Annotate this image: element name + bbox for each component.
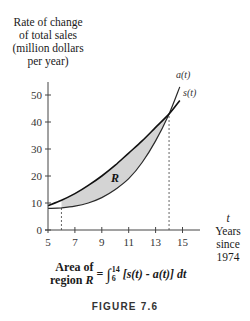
formula-lhs-text: region — [50, 273, 85, 287]
x-axis-label-line: 1974 — [206, 251, 250, 264]
x-axis-variable: t — [206, 212, 250, 225]
y-tick-label: 50 — [31, 89, 43, 101]
formula-lhs-var: R — [85, 273, 93, 287]
integral-limits: 14 6 — [112, 265, 120, 283]
curve-a — [48, 87, 180, 208]
x-tick-label: 15 — [177, 236, 189, 248]
formula-lhs-line2: region R — [50, 274, 93, 287]
y-tick-label: 20 — [31, 170, 43, 182]
formula-equals: = — [96, 268, 103, 281]
integral-lower-limit: 6 — [112, 274, 120, 283]
y-tick-label: 30 — [31, 143, 43, 155]
figure-caption: FIGURE 7.6 — [0, 301, 250, 312]
region-label-r: R — [110, 171, 119, 185]
x-tick-label: 13 — [150, 236, 162, 248]
formula-lhs: Area of region R — [50, 261, 93, 287]
y-tick-label: 10 — [31, 197, 43, 209]
x-axis-label-line: since — [206, 238, 250, 251]
x-tick-label: 5 — [45, 236, 51, 248]
formula-rhs: = ∫ 14 6 [s(t) - a(t)] dt — [96, 265, 186, 283]
area-formula: Area of region R = ∫ 14 6 [s(t) - a(t)] … — [50, 261, 186, 287]
x-tick-label: 11 — [123, 236, 134, 248]
curve-label-s: s(t) — [183, 87, 197, 99]
x-tick-label: 7 — [72, 236, 78, 248]
y-tick-label: 40 — [31, 116, 43, 128]
integrand: [s(t) - a(t)] dt — [123, 268, 187, 281]
integral-sign: ∫ — [106, 268, 110, 281]
y-tick-label: 0 — [37, 224, 43, 236]
curve-label-a: a(t) — [176, 69, 191, 81]
integral-upper-limit: 14 — [112, 265, 120, 274]
x-axis-label-line: Years — [206, 225, 250, 238]
shaded-region-r — [62, 114, 170, 208]
x-tick-label: 9 — [99, 236, 105, 248]
x-axis-label: t Years since 1974 — [206, 212, 250, 264]
